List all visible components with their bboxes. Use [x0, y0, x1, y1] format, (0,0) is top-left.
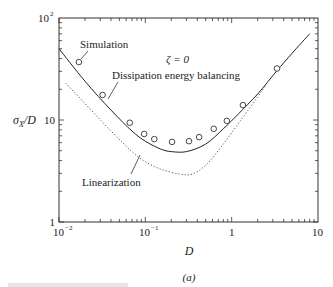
x-tick-label-0.01: 10 [53, 226, 65, 238]
simulation-point [100, 92, 106, 98]
dissipation-curve [59, 34, 310, 152]
x-axis-label: D [184, 244, 194, 258]
simulation-point [127, 120, 133, 126]
simulation-point [240, 102, 246, 108]
y-tick-label-100-exp: 2 [50, 10, 54, 18]
x-tick-label-0.1-exp: −1 [151, 224, 159, 232]
simulation-point [274, 66, 280, 72]
y-tick-label-100: 10 [38, 12, 50, 24]
zeta-annotation: ζ = 0 [166, 53, 189, 66]
simulation-point [211, 126, 217, 132]
clipped-caption-text [8, 283, 128, 287]
simulation-point [169, 139, 175, 145]
dissipation-leader [108, 82, 118, 99]
x-tick-label-10: 10 [312, 226, 324, 238]
simulation-point [141, 131, 147, 137]
figure-caption: (a) [183, 271, 196, 284]
simulation-label: Simulation [80, 38, 129, 50]
y-tick-label-10: 10 [44, 114, 56, 126]
dissipation-label: Dissipation energy balancing [112, 69, 241, 81]
y-axis-label: σX/D [13, 113, 36, 129]
x-tick-label-1: 1 [229, 226, 235, 238]
linearization-leader [131, 155, 140, 174]
simulation-point [151, 136, 157, 142]
x-tick-label-0.01-exp: −2 [65, 224, 73, 232]
simulation-point [186, 138, 192, 144]
x-tick-label-0.1: 10 [139, 226, 151, 238]
simulation-leader [81, 51, 88, 59]
linearization-curve [66, 83, 266, 175]
simulation-point [76, 59, 82, 65]
linearization-label: Linearization [82, 176, 141, 188]
chart: 1 10 10 2 10 −2 10 −1 1 10 D σX/D ζ = 0 … [0, 0, 333, 287]
simulation-point [224, 118, 230, 124]
simulation-point [196, 134, 202, 140]
